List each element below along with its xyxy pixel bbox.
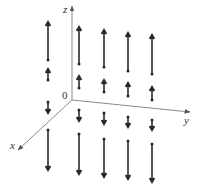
vector-arrow-icon: [101, 78, 107, 94]
vector-arrow-icon: [76, 109, 82, 124]
vector-arrow-icon: [76, 133, 82, 177]
vector-arrow-icon: [149, 143, 155, 185]
vector-arrows: [45, 20, 155, 184]
vector-arrow-icon: [125, 31, 131, 73]
vector-field-diagram: z y x 0: [0, 0, 201, 191]
vector-arrow-icon: [149, 33, 155, 76]
vector-arrow-icon: [45, 20, 51, 62]
z-axis-label: z: [62, 3, 68, 15]
vector-arrow-icon: [125, 116, 131, 130]
vector-arrow-icon: [101, 28, 107, 69]
vector-arrow-icon: [149, 85, 155, 102]
x-axis-label: x: [9, 139, 15, 151]
vector-arrow-icon: [101, 138, 107, 180]
axes: z y x 0: [9, 3, 190, 151]
vector-arrow-icon: [125, 81, 131, 98]
vector-arrow-icon: [76, 25, 82, 66]
vector-arrow-icon: [45, 129, 51, 173]
vector-arrow-icon: [125, 140, 131, 182]
vector-arrow-icon: [45, 67, 51, 82]
vector-arrow-icon: [101, 112, 107, 127]
vector-arrow-icon: [76, 74, 82, 90]
vector-arrow-icon: [45, 101, 51, 116]
y-axis: [72, 100, 190, 112]
x-axis: [18, 100, 72, 150]
vector-arrow-icon: [149, 119, 155, 133]
y-axis-label: y: [183, 114, 189, 126]
origin-label: 0: [62, 89, 68, 101]
